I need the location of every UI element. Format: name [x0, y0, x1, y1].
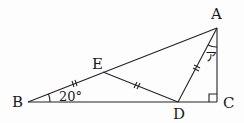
segment-ad [178, 28, 217, 102]
angle-label-a: ア [205, 51, 217, 63]
angle-arc-b [49, 94, 51, 102]
angle-label-b: 20° [59, 90, 82, 103]
segment-ed [103, 72, 178, 102]
point-label-c: C [223, 96, 234, 111]
geometry-diagram: A B C D E 20° ア [0, 0, 244, 123]
segment-ab [28, 28, 217, 102]
point-label-e: E [92, 57, 103, 72]
point-label-d: D [173, 107, 185, 122]
angle-arc-a [208, 45, 217, 47]
point-label-a: A [211, 7, 222, 22]
right-angle-marker [209, 94, 217, 102]
point-label-b: B [12, 95, 23, 110]
